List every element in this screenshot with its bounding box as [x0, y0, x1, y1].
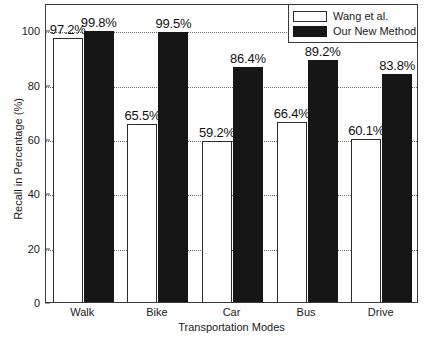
legend-swatch-icon-wang — [293, 11, 327, 22]
bar-drive-series-1 — [382, 74, 412, 302]
value-label-bike-series-0: 65.5% — [124, 108, 160, 123]
value-label-car-series-0: 59.2% — [199, 125, 235, 140]
value-label-drive-series-1: 83.8% — [379, 58, 415, 73]
bar-bike-series-0 — [127, 124, 157, 302]
y-tick-label: 0 — [4, 297, 40, 309]
x-tick-label-walk: Walk — [42, 306, 122, 318]
x-tick-label-car: Car — [192, 306, 272, 318]
value-label-bike-series-1: 99.5% — [155, 16, 191, 31]
legend-label-our-new-method: Our New Method — [333, 26, 416, 37]
y-tick-mark — [45, 85, 50, 86]
value-label-drive-series-0: 60.1% — [348, 123, 384, 138]
value-label-car-series-1: 86.4% — [230, 51, 266, 66]
x-tick-label-bus: Bus — [266, 306, 346, 318]
bar-bus-series-0 — [277, 122, 307, 302]
x-tick-label-bike: Bike — [117, 306, 197, 318]
legend-swatch-icon-our-new-method — [293, 26, 327, 37]
value-label-walk-series-1: 99.8% — [81, 15, 117, 30]
y-tick-mark — [45, 303, 50, 304]
bar-bus-series-1 — [308, 60, 338, 302]
x-tick-label-drive: Drive — [341, 306, 421, 318]
y-tick-mark — [45, 248, 50, 249]
bar-chart-figure: 020406080100 Recall in Percentage (%) 97… — [0, 0, 425, 338]
x-axis-label: Transportation Modes — [45, 321, 418, 333]
y-axis-label: Recall in Percentage (%) — [12, 49, 24, 269]
legend-item-wang[interactable]: Wang et al. — [293, 9, 413, 23]
bar-drive-series-0 — [351, 139, 381, 302]
legend-item-our-new-method[interactable]: Our New Method — [293, 24, 413, 38]
bar-bike-series-1 — [158, 32, 188, 302]
legend[interactable]: Wang et al. Our New Method — [288, 4, 418, 43]
value-label-bus-series-1: 89.2% — [305, 44, 341, 59]
bar-car-series-0 — [202, 141, 232, 302]
bar-car-series-1 — [233, 67, 263, 302]
plot-area: 97.2%99.8%65.5%99.5%59.2%86.4%66.4%89.2%… — [45, 4, 418, 303]
y-tick-label: 100 — [4, 25, 40, 37]
y-tick-mark — [45, 139, 50, 140]
value-label-bus-series-0: 66.4% — [274, 106, 310, 121]
y-tick-mark — [45, 194, 50, 195]
legend-label-wang: Wang et al. — [333, 11, 388, 22]
bar-walk-series-1 — [84, 31, 114, 302]
bar-walk-series-0 — [53, 38, 83, 302]
